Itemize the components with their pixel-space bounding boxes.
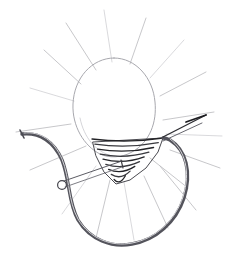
line-drawing-canvas (0, 0, 232, 268)
illustration-root (0, 0, 232, 268)
